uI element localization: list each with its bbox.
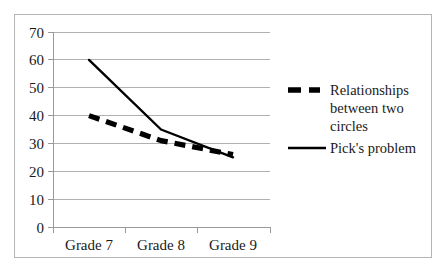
chart-legend: Relationships between two circles Pick's… [288,82,417,156]
x-tick-label-grade-8: Grade 8 [137,237,185,253]
y-tick-label-50: 50 [29,80,44,96]
legend-label-relationships-line1: Relationships [330,82,409,98]
legend-label-picks-problem: Pick's problem [330,140,417,156]
y-tick-label-60: 60 [29,52,44,68]
chart-figure: 70 60 50 40 30 20 10 0 Grade 7 Grade 8 G… [0,0,447,276]
legend-label-relationships-line3: circles [330,118,368,134]
series-line-relationships-between-two-circles [89,116,233,155]
y-tickmarks-group [48,32,53,227]
y-tick-label-0: 0 [37,220,45,236]
legend-label-relationships-line2: between two [330,100,404,116]
x-tick-label-grade-7: Grade 7 [65,237,113,253]
y-tick-label-10: 10 [29,192,44,208]
x-tick-label-grade-9: Grade 9 [209,237,257,253]
y-tick-label-40: 40 [29,108,44,124]
y-tick-label-70: 70 [29,25,44,41]
y-tick-label-20: 20 [29,164,44,180]
x-tickmarks-group [53,227,270,233]
line-chart-canvas: 70 60 50 40 30 20 10 0 Grade 7 Grade 8 G… [0,0,447,276]
x-axis-tick-labels: Grade 7 Grade 8 Grade 9 [65,237,257,253]
y-axis-tick-labels: 70 60 50 40 30 20 10 0 [29,25,44,236]
gridlines-group [53,32,270,199]
y-tick-label-30: 30 [29,136,44,152]
